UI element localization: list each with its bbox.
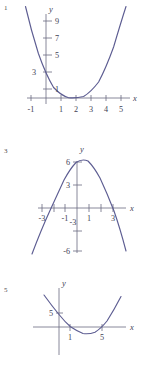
y-axis-label-1: y xyxy=(48,4,53,14)
y-tick-label-1-1: 1 xyxy=(55,85,59,94)
y-tick-label-3-neg3: -3 xyxy=(70,218,77,227)
y-tick-label-1-5: 5 xyxy=(55,51,59,60)
y-tick-label-3-6: 6 xyxy=(66,158,70,167)
x-tick-label-1-5: 5 xyxy=(119,105,123,114)
x-axis-label-5: x xyxy=(129,322,134,332)
x-tick-label-5-5: 5 xyxy=(100,333,104,342)
x-tick-label-3-3: 3 xyxy=(111,214,115,223)
parabola-curve-3 xyxy=(32,160,126,254)
y-tick-label-3-3: 3 xyxy=(66,181,70,190)
x-tick-label-3-neg3: -3 xyxy=(39,214,46,223)
y-tick-label-3-neg6: -6 xyxy=(63,247,70,255)
x-tick-label-5-1: 1 xyxy=(68,333,72,342)
x-tick-label-1-4: 4 xyxy=(104,105,108,114)
y-tick-label-1-9: 9 xyxy=(55,17,59,26)
problem-5: 5 y x 5 xyxy=(0,255,144,374)
y-axis-label-5: y xyxy=(61,278,66,288)
figure-3: y x 6 3 -3 -6 -3 -1 1 3 xyxy=(0,125,144,255)
y-ticks-1 xyxy=(43,21,52,89)
parabola-curve-5 xyxy=(44,295,121,334)
graph-5-svg: y x 5 1 5 xyxy=(0,255,144,374)
y-axis-label-3: y xyxy=(79,144,84,154)
worksheet-page: 1 xyxy=(0,0,144,374)
x-tick-label-1-neg1: -1 xyxy=(28,105,35,114)
x-tick-label-1-2: 2 xyxy=(74,105,78,114)
parabola-curve-1 xyxy=(26,7,127,98)
x-tick-label-3-neg1: -1 xyxy=(62,214,69,223)
figure-5: y x 5 1 5 xyxy=(0,255,144,374)
y-tick-label-5-5: 5 xyxy=(49,309,53,318)
y-tick-label-1-7: 7 xyxy=(55,34,59,43)
x-tick-label-1-3: 3 xyxy=(89,105,93,114)
graph-3-svg: y x 6 3 -3 -6 -3 -1 1 3 xyxy=(0,125,144,255)
graph-1-svg: y x 1 3 5 7 9 -1 1 2 3 4 5 xyxy=(0,0,144,125)
y-ticks-3 xyxy=(73,162,82,251)
figure-1: y x 1 3 5 7 9 -1 1 2 3 4 5 xyxy=(0,0,144,125)
problem-3: 3 xyxy=(0,125,144,255)
x-tick-label-1-1: 1 xyxy=(59,105,63,114)
x-axis-label-3: x xyxy=(129,203,134,213)
y-tick-label-1-3: 3 xyxy=(32,68,36,77)
x-axis-label-1: x xyxy=(132,93,137,103)
x-tick-label-3-1: 1 xyxy=(87,214,91,223)
problem-1: 1 xyxy=(0,0,144,125)
